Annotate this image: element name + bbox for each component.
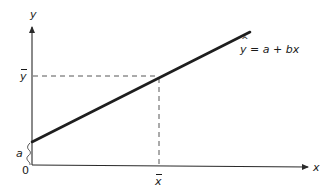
regression-diagram (0, 0, 321, 191)
origin-label: 0 (22, 165, 29, 176)
regression-equation: y = a + bx (240, 44, 299, 55)
intercept-brace (27, 143, 30, 165)
x-mean-symbol: x (155, 176, 162, 187)
x-axis (32, 165, 308, 167)
y-mean-symbol: y (20, 71, 27, 82)
intercept-label: a (16, 148, 23, 159)
equation-rhs: = a + bx (247, 43, 300, 56)
regression-line (32, 32, 250, 142)
y-axis-label: y (30, 9, 37, 20)
y-mean-label: y (20, 71, 27, 82)
x-mean-label: x (155, 176, 162, 187)
y-hat-symbol: y (240, 44, 247, 55)
x-axis-label: x (313, 162, 320, 173)
